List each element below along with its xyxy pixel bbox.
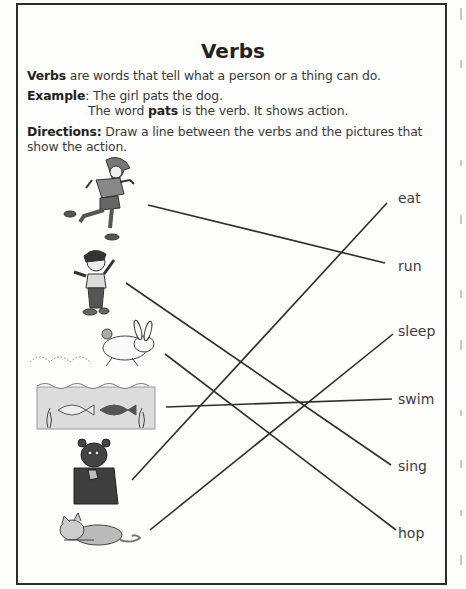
verb-hop: hop: [398, 525, 424, 541]
verb-sing: sing: [398, 458, 427, 474]
cat-sleeping-picture: [60, 513, 140, 545]
verb-eat: eat: [398, 190, 421, 206]
boy-running-picture: [64, 157, 134, 240]
pictures-and-lines: [0, 0, 466, 589]
line-bear-to-eat: [132, 203, 387, 480]
verb-run: run: [398, 258, 422, 274]
matching-lines: [126, 203, 396, 530]
fish-swimming-picture: [37, 384, 155, 430]
line-boy-to-run: [148, 205, 385, 263]
bear-eating-picture: [74, 439, 118, 504]
line-girl-to-sing: [126, 283, 391, 465]
rabbit-hopping-picture: [30, 320, 154, 366]
line-rabbit-to-hop: [165, 354, 396, 530]
girl-singing-picture: [74, 250, 114, 315]
verb-swim: swim: [398, 391, 434, 407]
verb-sleep: sleep: [398, 323, 435, 339]
